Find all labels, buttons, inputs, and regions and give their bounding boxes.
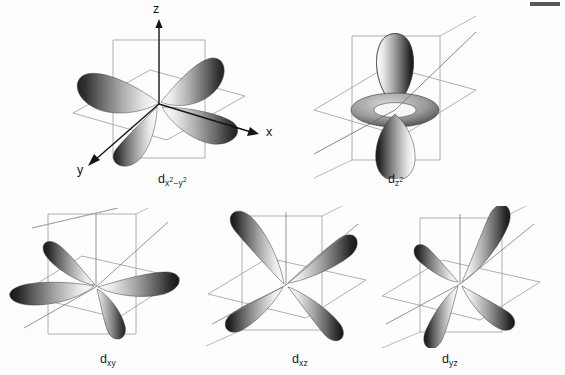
orbital-label-sub-pre-sup: 2: [400, 176, 404, 183]
orbital-label-dxy: dxy: [100, 352, 116, 366]
orbital-label-base: d: [442, 352, 449, 366]
orbital-diagram-dyz: [370, 206, 555, 348]
orbital-diagram-dxz: [198, 206, 378, 348]
orbital-diagram-dxy: [8, 208, 198, 348]
reference-planes-dxy: [20, 208, 180, 334]
orbital-label-sub-pre: xy: [107, 358, 116, 368]
orbital-diagram-dx2y2: [55, 8, 275, 183]
orbital-panel-dyz: [370, 206, 555, 352]
axis-label-x: x: [266, 125, 272, 139]
orbital-lobes-dyz: [414, 206, 515, 348]
orbital-label-base: d: [158, 172, 165, 186]
orbital-diagram-dz2: [300, 14, 490, 179]
orbital-label-dx2y2: dx2−y2: [158, 172, 187, 186]
orbital-panel-dxz: [198, 206, 378, 352]
axis-label-y: y: [77, 163, 83, 177]
coordinate-axes-dxy: [24, 214, 168, 328]
orbital-panel-dx2y2: z x y: [55, 8, 275, 187]
page-edge-mark: [530, 2, 560, 6]
orbital-label-sub-mid: −y: [173, 178, 183, 188]
orbital-lobes-dxz: [225, 211, 357, 341]
orbital-label-sub-pre: z: [395, 178, 399, 188]
orbital-label-sub-pre: x: [165, 178, 169, 188]
orbital-lobes-dxy: [10, 241, 180, 339]
orbital-label-sub-pre: xz: [299, 358, 308, 368]
orbital-label-base: d: [292, 352, 299, 366]
orbital-label-base: d: [388, 172, 395, 186]
orbital-label-sub-post-sup: 2: [183, 176, 187, 183]
orbital-panel-dz2: [300, 14, 490, 183]
coordinate-axes-dyz: [386, 214, 534, 324]
reference-planes-dyz: [382, 206, 542, 348]
orbital-label-sub-pre-sup: 2: [170, 176, 174, 183]
d-orbital-figure: z x y dx2−y2: [0, 0, 565, 375]
orbital-label-sub-pre: yz: [449, 358, 458, 368]
orbital-label-dxz: dxz: [292, 352, 308, 366]
orbital-panel-dxy: [8, 208, 198, 352]
orbital-label-base: d: [100, 352, 107, 366]
orbital-label-dyz: dyz: [442, 352, 458, 366]
axis-label-z: z: [153, 2, 159, 16]
orbital-label-dz2: dz2: [388, 172, 403, 186]
orbital-lobes-dx2y2: [77, 58, 237, 166]
